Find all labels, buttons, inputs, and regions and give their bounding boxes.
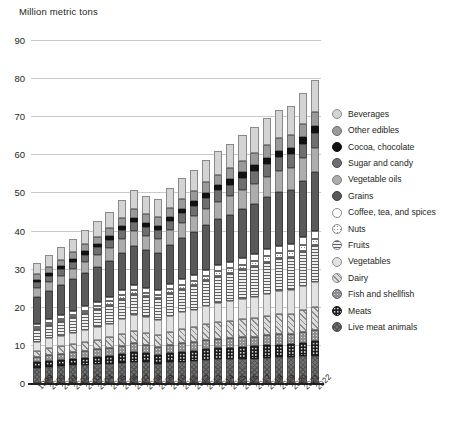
table-row[interactable] (81, 230, 89, 383)
bar-segment-vegetables (130, 315, 138, 331)
table-row[interactable] (250, 127, 258, 383)
bar-segment-meats (275, 345, 283, 358)
bar-segment-fruits (142, 296, 150, 317)
table-row[interactable] (69, 239, 77, 383)
bar-segment-vegetables (105, 324, 113, 338)
table-row[interactable] (33, 263, 41, 383)
bar-segment-vegetables (178, 312, 186, 329)
bar-segment-other (275, 138, 283, 151)
bar-segment-meats (93, 357, 101, 365)
table-row[interactable] (166, 188, 174, 383)
table-row[interactable] (202, 160, 210, 383)
bar-segment-vegetables (287, 290, 295, 313)
bar-segment-other (250, 153, 258, 165)
legend-item-label: Fish and shellfish (348, 290, 414, 299)
legend-item-label: Cocoa, chocolate (348, 143, 414, 152)
bar-segment-dairy (299, 310, 307, 332)
table-row[interactable] (130, 190, 138, 383)
bar-segment-grains (142, 250, 150, 288)
bar-segment-fish (142, 345, 150, 353)
bar-segment-other (311, 112, 319, 126)
legend-item-vegoils[interactable]: Vegetable oils (332, 172, 454, 188)
bar-segment-fish (178, 343, 186, 352)
table-row[interactable] (226, 144, 234, 383)
table-row[interactable] (142, 196, 150, 383)
table-row[interactable] (118, 200, 126, 383)
legend-item-meats[interactable]: Meats (332, 303, 454, 319)
bar-segment-sugar (93, 247, 101, 255)
bar-segment-fruits (130, 294, 138, 316)
legend-item-liveanimals[interactable]: Live meat animals (332, 319, 454, 335)
legend-item-fish[interactable]: Fish and shellfish (332, 286, 454, 302)
table-row[interactable] (299, 93, 307, 383)
y-axis-tick-label: 80 (14, 73, 25, 84)
legend-item-label: Grains (348, 192, 373, 201)
bar-segment-meats (130, 352, 138, 362)
y-axis-tick-label: 60 (14, 149, 25, 160)
legend-item-fruits[interactable]: Fruits (332, 237, 454, 253)
table-row[interactable] (93, 221, 101, 383)
table-row[interactable] (45, 255, 53, 383)
bar-segment-coffee (299, 237, 307, 244)
table-row[interactable] (275, 110, 283, 383)
legend-item-dairy[interactable]: Dairy (332, 270, 454, 286)
bar-segment-vegetables (226, 301, 234, 321)
table-row[interactable] (178, 178, 186, 383)
legend-item-label: Other edibles (348, 126, 399, 135)
bar-segment-beverages (275, 110, 283, 139)
legend-item-cocoa[interactable]: Cocoa, chocolate (332, 139, 454, 155)
bar-segment-grains (57, 285, 65, 315)
table-row[interactable] (238, 135, 246, 383)
table-row[interactable] (214, 151, 222, 383)
legend-swatch-icon (332, 142, 342, 152)
bar-segment-beverages (166, 188, 174, 207)
table-row[interactable] (57, 247, 65, 383)
bar-segment-fruits (263, 262, 271, 294)
bar-segment-meats (287, 344, 295, 357)
legend-item-sugar[interactable]: Sugar and candy (332, 155, 454, 171)
legend-item-grains[interactable]: Grains (332, 188, 454, 204)
legend-item-label: Fruits (348, 241, 369, 250)
table-row[interactable] (311, 80, 319, 383)
bar-segment-vegoils (93, 255, 101, 267)
bar-segment-sugar (250, 171, 258, 184)
bar-segment-fish (263, 335, 271, 345)
bar-segment-dairy (250, 318, 258, 337)
bar-segment-vegetables (81, 330, 89, 342)
table-row[interactable] (287, 106, 295, 383)
table-row[interactable] (154, 199, 162, 383)
bar-segment-beverages (130, 190, 138, 209)
bar-segment-other (93, 237, 101, 244)
bar-segment-vegetables (154, 320, 162, 335)
bar-segment-vegoils (178, 223, 186, 238)
bar-segment-beverages (118, 200, 126, 218)
table-row[interactable] (190, 170, 198, 383)
y-axis-tick-label: 20 (14, 301, 25, 312)
bar-segment-vegetables (69, 333, 77, 344)
bar-segment-grains (93, 267, 101, 301)
bar-segment-vegetables (118, 319, 126, 334)
legend-item-label: Sugar and candy (348, 159, 413, 168)
legend-item-label: Vegetables (348, 257, 391, 266)
bar-segment-meats (81, 358, 89, 365)
bar-segment-fruits (81, 313, 89, 330)
bar-segment-dairy (166, 332, 174, 345)
bar-segment-beverages (45, 255, 53, 267)
bar-segment-grains (190, 232, 198, 275)
bar-segment-vegoils (33, 288, 41, 296)
legend-item-vegetables[interactable]: Vegetables (332, 254, 454, 270)
bar-segment-fish (81, 351, 89, 358)
legend-item-coffee[interactable]: Coffee, tea, and spices (332, 204, 454, 220)
legend-item-label: Dairy (348, 274, 368, 283)
legend-item-other[interactable]: Other edibles (332, 122, 454, 138)
bar-segment-sugar (118, 230, 126, 239)
bar-segment-vegetables (250, 297, 258, 318)
bar-segment-vegetables (238, 299, 246, 320)
table-row[interactable] (263, 118, 271, 383)
legend-item-beverages[interactable]: Beverages (332, 106, 454, 122)
bar-segment-beverages (93, 221, 101, 237)
table-row[interactable] (105, 212, 113, 383)
legend-item-label: Coffee, tea, and spices (348, 208, 436, 217)
legend: BeveragesOther ediblesCocoa, chocolateSu… (332, 106, 454, 335)
legend-item-nuts[interactable]: Nuts (332, 221, 454, 237)
